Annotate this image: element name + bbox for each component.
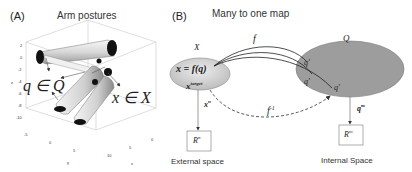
y-axis-label: y [67, 160, 69, 165]
set-q-ellipse [296, 41, 404, 97]
panel-b-label: (B) [172, 10, 187, 22]
q-prime-2: q' [304, 77, 310, 86]
x-n-label: xn [204, 99, 211, 109]
panel-b-title: Many to one map [212, 8, 289, 19]
q-prime-3: q' [334, 83, 340, 92]
x-equals-f-q: x = f(q) [176, 63, 207, 74]
y-tick-0: 0 [49, 140, 51, 145]
set-q-label: Q [343, 33, 350, 43]
box-rm-label: Rm [344, 129, 353, 139]
x-target-label: xtarget [186, 81, 202, 91]
box-rn-label: Rn [193, 135, 200, 145]
z-tick-m10: -10 [16, 115, 22, 120]
q-in-Q-label: q ∈ Q [23, 76, 65, 95]
y-tick-m5: -5 [24, 132, 28, 137]
q-prime-1: q' [304, 58, 310, 67]
x-tick-5: 5 [129, 145, 131, 150]
x-tick-10: 10 [107, 153, 111, 158]
y-tick-5: 5 [73, 148, 75, 153]
z-tick-m2: -2 [18, 67, 22, 72]
x-n-sup: n [208, 99, 211, 104]
z-tick-2: 2 [20, 43, 22, 48]
map-f-label: f [253, 33, 256, 44]
q-m-sup: m [361, 103, 365, 108]
x-axis-label: x [131, 161, 133, 166]
set-x-label: X [194, 42, 200, 52]
z-tick-0: 0 [20, 55, 22, 60]
z-tick-m6: -6 [18, 91, 22, 96]
z-tick-m4: -4 [18, 79, 22, 84]
inverse-sup: -1 [270, 105, 275, 111]
q-m-label: qm [357, 103, 365, 113]
inverse-map-label: f-1 [267, 105, 275, 116]
caption-internal-space: Internal Space [321, 156, 373, 165]
z-axis-label: z [11, 80, 13, 85]
rm-sup: m [349, 129, 353, 134]
rn-sup: n [198, 135, 201, 140]
x-tick-0: 0 [151, 137, 153, 142]
x-in-X-label: x ∈ X [112, 88, 151, 107]
caption-external-space: External space [171, 157, 224, 166]
z-tick-m8: -8 [18, 103, 22, 108]
x-target-sup: target [191, 81, 203, 86]
